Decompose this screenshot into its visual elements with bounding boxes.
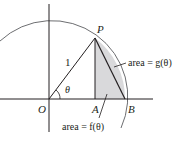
point-a-label: A xyxy=(91,103,99,115)
point-b-label: B xyxy=(128,103,135,115)
annotation-f: area = f(θ) xyxy=(62,121,104,133)
angle-arc xyxy=(56,90,60,99)
point-o-label: O xyxy=(38,103,46,115)
angle-label: θ xyxy=(65,84,70,95)
radius-label: 1 xyxy=(65,56,71,68)
radius-op xyxy=(49,38,95,99)
point-p-label: P xyxy=(96,23,104,35)
unit-circle-diagram: P O A B 1 θ area = g(θ) area = f(θ) xyxy=(0,0,184,141)
annotation-g: area = g(θ) xyxy=(128,57,172,69)
